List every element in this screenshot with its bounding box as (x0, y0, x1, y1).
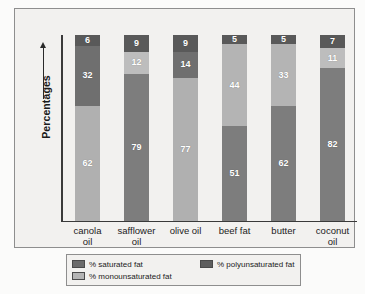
bar-slot: 91477 (161, 35, 210, 221)
bar-segment[interactable]: 5 (271, 35, 296, 44)
legend-item-polyunsaturated-fat: % polyunsaturated fat (200, 258, 294, 270)
bar-segment-value: 32 (82, 71, 92, 80)
bar-segment-value: 12 (131, 58, 141, 67)
bar-segment-value: 77 (180, 145, 190, 154)
bar-segment[interactable]: 11 (320, 48, 345, 68)
chart-legend: % saturated fat % polyunsaturated fat % … (66, 254, 301, 286)
bar-segment[interactable]: 82 (320, 68, 345, 221)
bar-segment[interactable]: 32 (75, 46, 100, 106)
legend-item-monounsaturated-fat: % monounsaturated fat (72, 270, 200, 282)
bar-segment-value: 79 (131, 143, 141, 152)
bar-segment[interactable]: 51 (222, 126, 247, 221)
bar-segment[interactable]: 77 (173, 78, 198, 221)
x-axis-label: olive oil (161, 225, 210, 247)
bar-segment-value: 9 (183, 39, 188, 48)
bar-slot: 91279 (112, 35, 161, 221)
bar-segment-value: 6 (85, 36, 90, 45)
bar-stack[interactable]: 53362 (271, 35, 296, 221)
bar-slot: 71182 (308, 35, 357, 221)
bar-segment[interactable]: 9 (173, 35, 198, 52)
legend-row: % monounsaturated fat (72, 270, 295, 282)
legend-label: % polyunsaturated fat (217, 260, 294, 269)
bar-segment[interactable]: 7 (320, 35, 345, 48)
x-axis-label: beef fat (210, 225, 259, 247)
bar-segment-value: 51 (229, 169, 239, 178)
bar-slot: 53362 (259, 35, 308, 221)
x-axis-labels: canolaoilsaffloweroilolive oilbeef fatbu… (63, 225, 357, 247)
legend-label: % monounsaturated fat (89, 272, 172, 281)
bar-segment-value: 62 (278, 159, 288, 168)
bar-stack[interactable]: 54451 (222, 35, 247, 221)
bar-segment[interactable]: 33 (271, 44, 296, 105)
bar-segment-value: 44 (229, 81, 239, 90)
bar-segment-value: 9 (134, 39, 139, 48)
legend-label: % saturated fat (89, 260, 143, 269)
bar-segment-value: 14 (180, 60, 190, 69)
bar-segment[interactable]: 62 (271, 106, 296, 221)
bar-segment[interactable]: 5 (222, 35, 247, 44)
bar-segment-value: 5 (281, 35, 286, 44)
bar-segment-value: 5 (232, 35, 237, 44)
bar-segment[interactable]: 14 (173, 52, 198, 78)
bar-segment[interactable]: 6 (75, 35, 100, 46)
bar-segment[interactable]: 12 (124, 52, 149, 74)
bar-stack[interactable]: 71182 (320, 35, 345, 221)
legend-row: % saturated fat % polyunsaturated fat (72, 258, 295, 270)
chart-frame: Percentages 6326291279914775445153362711… (14, 8, 355, 248)
y-axis-group: Percentages (31, 39, 57, 219)
bar-segment[interactable]: 62 (75, 106, 100, 221)
plot-area: 632629127991477544515336271182 (61, 35, 357, 222)
bar-segment-value: 11 (328, 54, 338, 63)
bar-stack[interactable]: 63262 (75, 35, 100, 221)
y-axis-title: Percentages (40, 48, 52, 166)
bar-segment[interactable]: 44 (222, 44, 247, 126)
bar-segment[interactable]: 79 (124, 74, 149, 221)
bar-segment[interactable]: 9 (124, 35, 149, 52)
legend-swatch-icon (72, 260, 85, 268)
x-axis-label: saffloweroil (112, 225, 161, 247)
bar-segment-value: 62 (82, 159, 92, 168)
bar-segment-value: 82 (327, 140, 337, 149)
bar-segment-value: 7 (330, 37, 335, 46)
bar-stack[interactable]: 91477 (173, 35, 198, 221)
bar-segment-value: 33 (278, 71, 288, 80)
chart-page: Percentages 6326291279914775445153362711… (0, 0, 365, 294)
x-axis-label: coconutoil (308, 225, 357, 247)
bar-stack[interactable]: 91279 (124, 35, 149, 221)
bar-slot: 54451 (210, 35, 259, 221)
bar-group: 632629127991477544515336271182 (63, 35, 357, 221)
bar-slot: 63262 (63, 35, 112, 221)
x-axis-label: canolaoil (63, 225, 112, 247)
legend-swatch-icon (200, 260, 213, 268)
legend-swatch-icon (72, 272, 85, 280)
x-axis-label: butter (259, 225, 308, 247)
legend-item-saturated-fat: % saturated fat (72, 258, 200, 270)
